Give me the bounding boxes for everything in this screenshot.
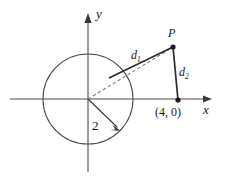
circle-radius-label: 2 [92,119,99,132]
dashed-ray-origin-to-p [88,49,170,99]
figure-canvas [0,0,225,177]
point-p-dot [170,44,175,49]
y-axis-arrowhead [84,13,91,23]
x-axis [10,95,212,102]
y-axis-label: y [96,7,102,20]
segment-d2 [173,47,178,100]
segment-d2-label: d2 [179,66,189,81]
math-figure: y x P (4, 0) d1 d2 2 [0,0,225,177]
point-4-0-dot [175,97,180,102]
segment-d1 [109,47,173,78]
point-p-label: P [168,27,175,39]
segment-d1-label: d1 [131,49,141,64]
y-axis [84,13,91,172]
x-axis-label: x [203,103,209,116]
segment-d2-label-subscript: 2 [185,72,189,81]
segment-d1-label-subscript: 1 [137,55,141,64]
point-4-0-label: (4, 0) [155,106,181,118]
